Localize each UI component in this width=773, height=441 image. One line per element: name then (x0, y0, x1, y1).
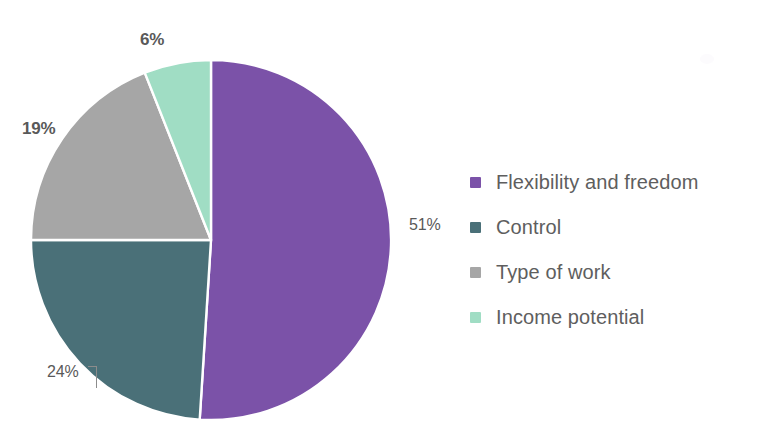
legend-label-control: Control (496, 216, 561, 239)
pie-chart-page: 6% 19% 51% 24% Flexibility and freedomCo… (0, 0, 773, 441)
scan-artifact (700, 54, 714, 64)
legend-swatch-type-of-work (470, 267, 481, 278)
legend-item-income-potential[interactable]: Income potential (470, 295, 698, 340)
legend-item-flexibility-and-freedom[interactable]: Flexibility and freedom (470, 160, 698, 205)
legend-item-type-of-work[interactable]: Type of work (470, 250, 698, 295)
leader-line-control (88, 366, 97, 388)
legend-swatch-control (470, 222, 481, 233)
chart-legend: Flexibility and freedomControlType of wo… (470, 160, 698, 340)
slice-data-label-type-of-work: 19% (22, 119, 55, 139)
slice-data-label-control: 24% (47, 363, 78, 381)
pie-slice-group (31, 60, 391, 420)
legend-swatch-income-potential (470, 312, 481, 323)
legend-label-type-of-work: Type of work (496, 261, 611, 284)
pie-slice-control[interactable] (31, 240, 211, 420)
legend-item-control[interactable]: Control (470, 205, 698, 250)
legend-swatch-flexibility-and-freedom (470, 177, 481, 188)
slice-data-label-income-potential: 6% (140, 30, 164, 50)
slice-data-label-flexibility-and-freedom: 51% (409, 216, 440, 234)
legend-label-flexibility-and-freedom: Flexibility and freedom (496, 171, 698, 194)
pie-slice-flexibility-and-freedom[interactable] (200, 60, 391, 420)
legend-label-income-potential: Income potential (496, 306, 644, 329)
